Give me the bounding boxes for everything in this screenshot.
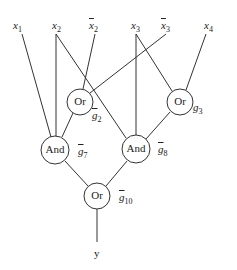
gate-g10-type: Or [82,190,112,201]
gate-g8-type: And [121,143,151,154]
gate-g3-label: g3 [193,102,203,116]
input-x1: x1 [13,20,22,34]
gate-g2-type: Or [65,96,95,107]
gate-g10-label: g10 [119,192,133,206]
gate-g8-label: g8 [158,144,168,158]
gate-g2-label: g2 [92,110,102,124]
circuit-wires [0,0,237,270]
input-x3-bar: x3 [161,20,170,34]
gate-g7-type: And [40,144,70,155]
output-y: y [94,248,100,259]
input-x2-bar: x2 [89,20,98,34]
input-x3: x3 [131,20,140,34]
input-x2: x2 [52,20,61,34]
gate-g3-type: Or [165,96,195,107]
input-x4: x4 [204,20,213,34]
gate-g7-label: g7 [78,146,88,160]
